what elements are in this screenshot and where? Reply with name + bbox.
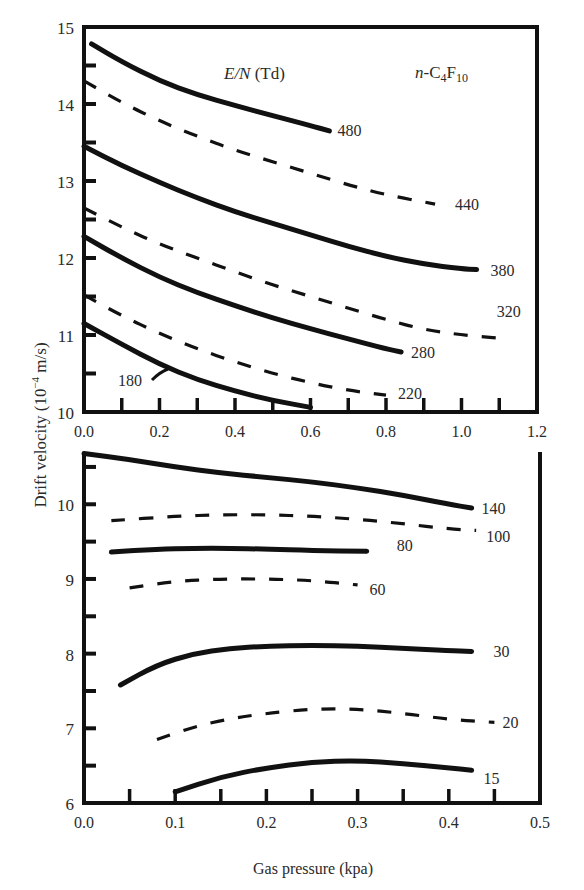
y-tick-label: 12: [57, 250, 74, 269]
series-label-320: 320: [497, 303, 521, 320]
y-tick-label: 10: [57, 404, 74, 423]
y-tick-label: 11: [58, 327, 74, 346]
y-tick-label: 6: [66, 795, 75, 814]
x-tick-label: 0.4: [439, 814, 459, 831]
series-label-380: 380: [491, 262, 515, 279]
x-axis-label: Gas pressure (kpa): [253, 860, 373, 878]
y-tick-label: 8: [66, 646, 75, 665]
series-100-line: [111, 515, 476, 531]
y-tick-label: 15: [57, 19, 74, 38]
series-label-30: 30: [494, 643, 510, 660]
x-tick-label: 0.4: [225, 423, 245, 440]
x-tick-label: 0.2: [256, 814, 276, 831]
x-tick-label: 1.0: [452, 423, 472, 440]
series-label-80: 80: [397, 537, 413, 554]
y-axis-label: Drift velocity (10−4 m/s): [29, 342, 50, 507]
x-tick-label: 1.2: [527, 423, 547, 440]
gas-label: n-C4F10: [415, 63, 468, 85]
series-480-line: [92, 44, 330, 131]
series-label-280: 280: [411, 344, 435, 361]
y-tick-label: 10: [57, 496, 74, 515]
series-140-line: [84, 453, 472, 508]
series-label-220: 220: [398, 385, 422, 402]
series-20-line: [157, 709, 494, 740]
series-label-20: 20: [502, 714, 518, 731]
x-tick-label: 0.5: [530, 814, 550, 831]
series-80-line: [111, 548, 366, 552]
y-tick-label: 9: [66, 571, 75, 590]
series-180-line: [84, 323, 311, 407]
label-pointer: [152, 369, 168, 380]
series-label-180: 180: [118, 372, 142, 389]
y-tick-label: 7: [66, 720, 75, 739]
plot-frame: [84, 452, 540, 803]
top-panel: 1011121314150.00.20.40.60.81.01.24804403…: [57, 19, 547, 440]
series-380-line: [84, 146, 477, 269]
series-label-440: 440: [455, 196, 479, 213]
bottom-panel: 6789100.00.10.20.30.40.51401008060302015: [57, 452, 550, 831]
y-tick-label: 13: [57, 173, 74, 192]
en-header: E/N (Td): [223, 64, 285, 83]
series-15-line: [175, 761, 471, 792]
series-label-100: 100: [486, 528, 510, 545]
x-tick-label: 0.6: [301, 423, 321, 440]
x-tick-label: 0.8: [376, 423, 396, 440]
drift-velocity-figure: 1011121314150.00.20.40.60.81.01.24804403…: [0, 0, 584, 890]
plot-frame: [84, 27, 537, 412]
x-tick-label: 0.0: [74, 814, 94, 831]
series-30-line: [120, 646, 471, 685]
x-tick-label: 0.0: [74, 423, 94, 440]
x-tick-label: 0.1: [165, 814, 185, 831]
series-label-60: 60: [370, 581, 386, 598]
x-tick-label: 0.2: [150, 423, 170, 440]
series-label-480: 480: [337, 122, 361, 139]
series-60-line: [130, 579, 358, 588]
series-label-15: 15: [484, 770, 500, 787]
series-280-line: [84, 236, 401, 352]
series-label-140: 140: [482, 500, 506, 517]
series-440-line: [84, 81, 435, 204]
y-tick-label: 14: [57, 96, 75, 115]
x-tick-label: 0.3: [348, 814, 368, 831]
